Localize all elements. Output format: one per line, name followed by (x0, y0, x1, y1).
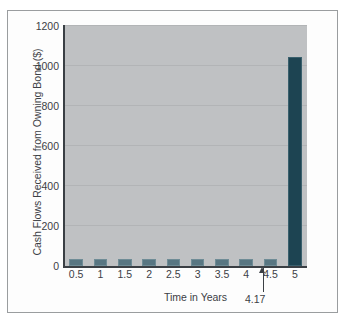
y-axis-line (63, 25, 65, 267)
bar (191, 259, 205, 266)
x-axis-tick-label: 5 (275, 269, 315, 280)
bar (94, 259, 108, 266)
plot-area (64, 26, 307, 266)
bar (118, 259, 132, 266)
bar (288, 57, 302, 266)
gridline (64, 225, 307, 226)
x-axis-title-text: Time in Years (164, 291, 227, 303)
bar (69, 259, 83, 266)
gridline (64, 65, 307, 66)
bar (215, 259, 229, 266)
gridline (64, 25, 307, 26)
x-axis-title: Time in Years (0, 291, 349, 303)
duration-arrow-icon (263, 268, 264, 292)
bar (142, 259, 156, 266)
bar (239, 259, 253, 266)
bar (167, 259, 181, 266)
gridline (64, 105, 307, 106)
duration-annotation-label: 4.17 (245, 293, 265, 305)
gridline (64, 145, 307, 146)
bond-cash-flow-chart-figure: 020040060080010001200 Cash Flows Receive… (0, 0, 349, 322)
gridline (64, 185, 307, 186)
y-axis-title: Cash Flows Received from Owning Bond ($) (31, 27, 43, 277)
bar (264, 259, 278, 266)
